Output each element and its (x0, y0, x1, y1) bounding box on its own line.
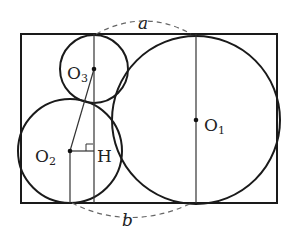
label-o3-sub: 3 (81, 72, 88, 85)
right-angle-mark (86, 144, 93, 151)
label-b: b (122, 210, 133, 230)
label-o3-main: O (67, 63, 81, 83)
label-o2-sub: 2 (49, 155, 56, 168)
label-o1: O1 (204, 115, 225, 137)
label-o3: O3 (67, 63, 88, 85)
label-a: a (138, 13, 148, 33)
diagram-svg: a b O1 O2 O3 H (0, 0, 297, 244)
label-h: H (97, 146, 112, 166)
label-o1-sub: 1 (218, 124, 225, 137)
point-o1 (194, 118, 199, 123)
label-o2: O2 (35, 146, 56, 168)
point-o3 (92, 67, 97, 72)
point-o2 (68, 149, 73, 154)
label-o1-main: O (204, 115, 218, 135)
outer-rectangle (21, 34, 277, 203)
label-o2-main: O (35, 146, 49, 166)
geometry-diagram: a b O1 O2 O3 H (0, 0, 297, 244)
